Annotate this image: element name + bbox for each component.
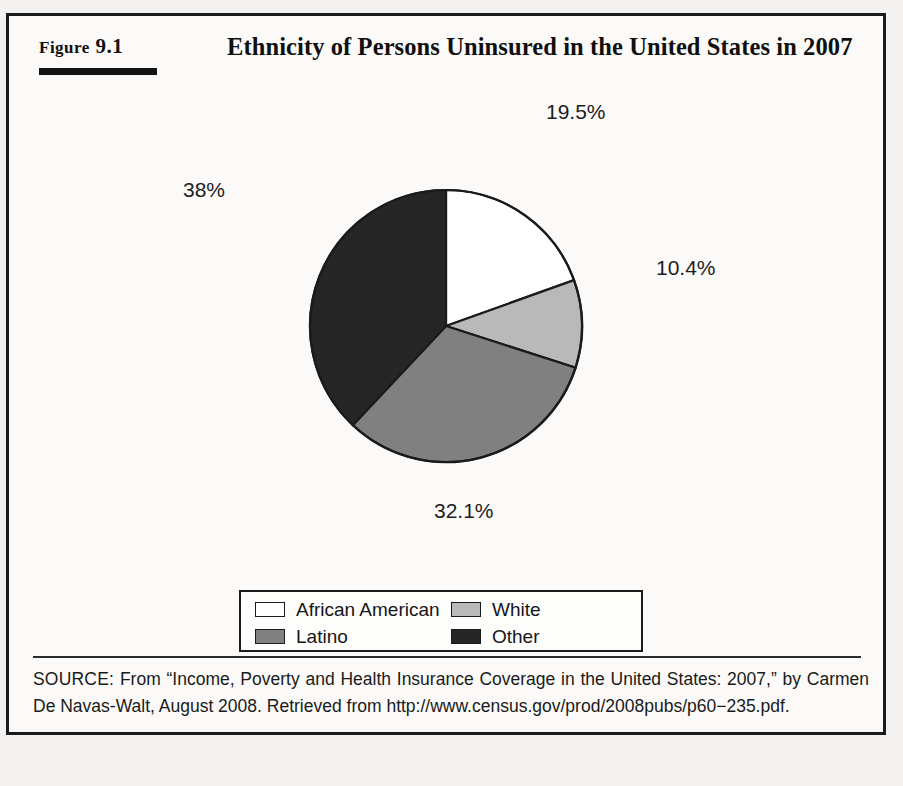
legend-label-latino: Latino	[296, 626, 348, 648]
chart-area: 19.5% 10.4% 32.1% 38%	[9, 94, 883, 584]
figure-header: Figure 9.1 Ethnicity of Persons Uninsure…	[9, 16, 883, 94]
swatch-african-american-icon	[255, 602, 285, 617]
chart-legend: African American White Latino Other	[239, 590, 643, 652]
swatch-latino-icon	[255, 629, 285, 644]
pie-label-white: 10.4%	[656, 256, 716, 280]
figure-label: Figure 9.1	[39, 34, 219, 59]
page-title: Ethnicity of Persons Uninsured in the Un…	[227, 31, 867, 64]
figure-label-block: Figure 9.1	[39, 34, 219, 75]
legend-label-white: White	[492, 599, 541, 621]
figure-frame: Figure 9.1 Ethnicity of Persons Uninsure…	[6, 13, 886, 735]
figure-rule	[39, 68, 157, 75]
legend-label-other: Other	[492, 626, 540, 648]
source-divider	[33, 656, 861, 658]
pie-label-other: 38%	[183, 178, 225, 202]
legend-item-latino: Latino	[255, 623, 451, 650]
swatch-other-icon	[451, 629, 481, 644]
legend-item-african-american: African American	[255, 596, 451, 623]
pie-label-african-american: 19.5%	[546, 100, 606, 124]
source-note: SOURCE: From “Income, Poverty and Health…	[33, 666, 869, 719]
legend-label-african-american: African American	[296, 599, 440, 621]
source-lead: SOURCE:	[33, 669, 114, 689]
legend-item-other: Other	[451, 623, 637, 650]
pie-label-latino: 32.1%	[434, 499, 494, 523]
legend-item-white: White	[451, 596, 637, 623]
swatch-white-icon	[451, 602, 481, 617]
source-text: From “Income, Poverty and Health Insuran…	[33, 669, 869, 716]
figure-label-word: Figure	[39, 38, 90, 57]
page-background: Figure 9.1 Ethnicity of Persons Uninsure…	[0, 0, 903, 786]
figure-label-number: 9.1	[96, 34, 124, 58]
